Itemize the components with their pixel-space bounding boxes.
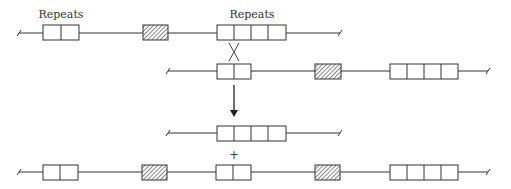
down-arrow-icon: [230, 85, 238, 117]
repeat-block-4: [390, 165, 458, 180]
chromosome-row-1: [17, 25, 342, 40]
chromosome-row-2: [166, 64, 490, 79]
hatched-marker: [142, 165, 167, 180]
crossover-x-icon: [229, 43, 239, 61]
chromosome-row-4: [17, 165, 490, 180]
repeat-block-4: [217, 126, 286, 141]
hatched-marker: [315, 64, 341, 79]
chromosome-row-3: [166, 126, 342, 141]
hatched-marker: [143, 25, 168, 40]
recombination-diagram: Repeats Repeats: [0, 0, 511, 189]
repeats-label-left: Repeats: [39, 8, 84, 21]
repeat-block-2: [43, 25, 79, 40]
repeats-label-right: Repeats: [230, 8, 275, 21]
repeat-block-2: [217, 64, 251, 79]
repeat-block-2: [216, 165, 251, 180]
repeat-block-4: [390, 64, 458, 79]
repeat-block-4: [217, 25, 286, 40]
repeat-block-2: [43, 165, 78, 180]
plus-sign: +: [229, 148, 239, 162]
hatched-marker: [315, 165, 340, 180]
